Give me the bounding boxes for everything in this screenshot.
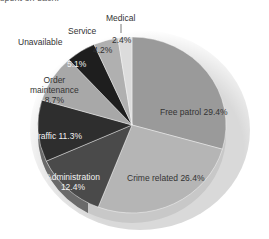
label-unavailable-name: Unavailable	[18, 37, 62, 47]
pie-chart	[0, 0, 269, 239]
label-crime-related: Crime related 26.4%	[127, 173, 204, 183]
label-free-patrol: Free patrol 29.4%	[160, 107, 228, 117]
label-medical-name: Medical	[106, 13, 135, 23]
label-service-name: Service	[68, 26, 96, 36]
label-traffic: Traffic 11.3%	[33, 131, 82, 141]
label-administration: Administration 12.4%	[46, 172, 100, 192]
label-service-value: 4.2%	[93, 45, 112, 55]
label-unavailable-value: 5.1%	[67, 59, 86, 69]
label-order-maintenance: Order maintenance 8.7%	[30, 75, 79, 105]
label-medical-value: 2.4%	[112, 35, 131, 45]
